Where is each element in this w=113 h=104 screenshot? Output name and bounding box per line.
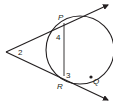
label-angle-2: 2 [18,48,23,57]
lower-tangent-ray [6,52,108,100]
label-angle-4: 4 [56,33,61,42]
label-p: P [58,13,64,22]
circle [46,16,113,84]
label-q: Q [93,77,99,86]
geometry-figure: P R Q 2 4 3 [0,0,113,104]
label-angle-3: 3 [66,71,71,80]
upper-tangent-ray [6,5,108,52]
diagram-canvas: P R Q 2 4 3 [0,0,113,104]
label-r: R [57,82,63,91]
